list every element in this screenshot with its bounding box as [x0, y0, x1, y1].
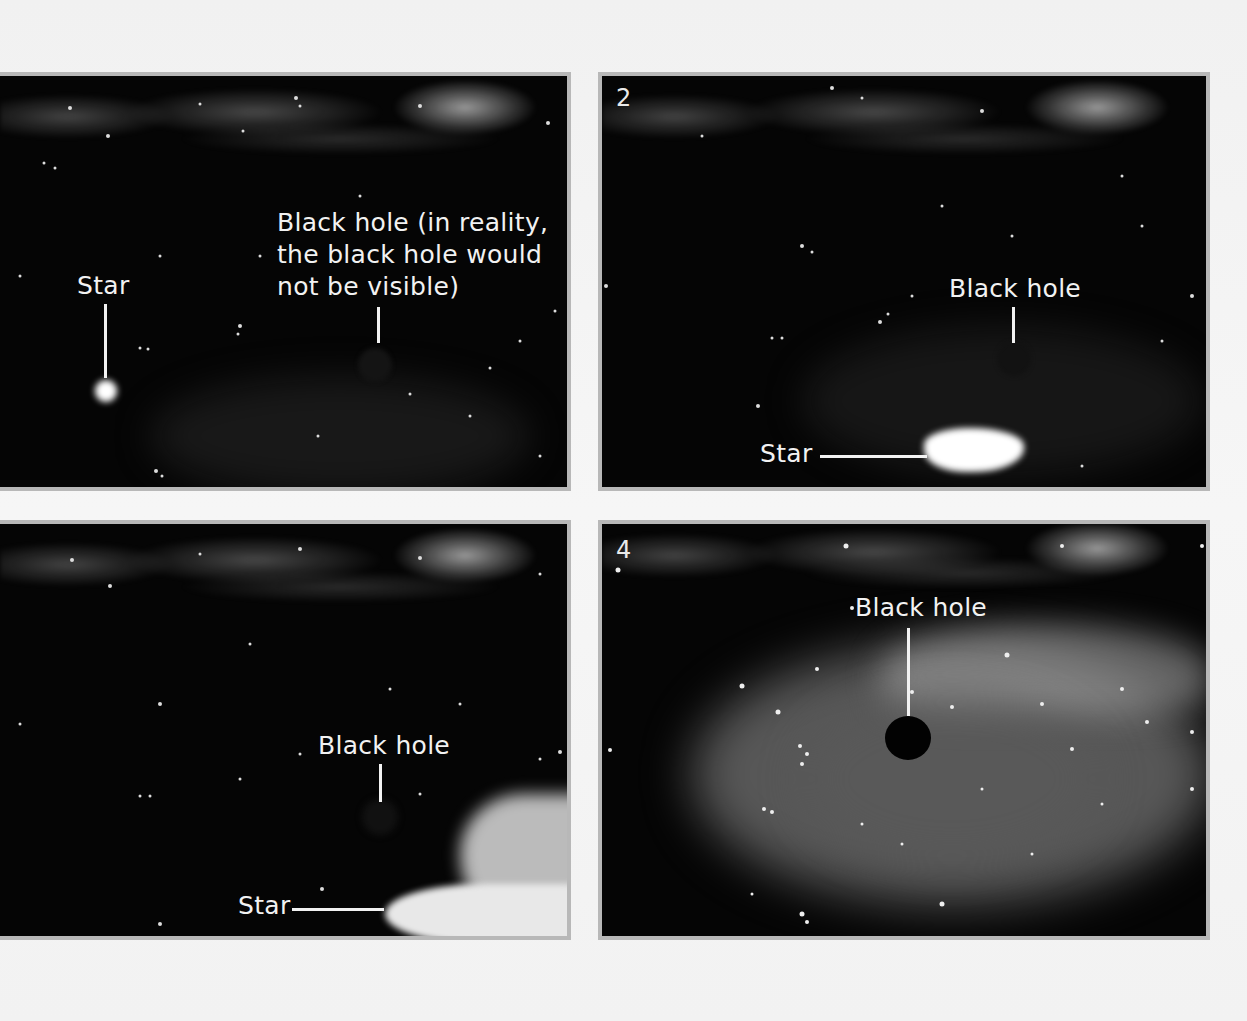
black-hole: [885, 716, 931, 760]
black-hole-leader-line: [907, 628, 910, 716]
panel-number: 2: [616, 84, 631, 112]
black-hole-label: Black hole: [855, 592, 987, 624]
star-object: [95, 380, 117, 402]
star-label: Star: [77, 270, 129, 302]
star-debris-stream: [385, 884, 571, 940]
star-label: Star: [760, 438, 812, 470]
black-hole-leader-line: [1012, 307, 1015, 343]
panel-2-star-stretched: 2 Black hole Star: [598, 72, 1210, 491]
panel-3-star-disrupted: Black hole Star: [0, 520, 571, 940]
black-hole-label-line1: Black hole (in reality,: [277, 207, 548, 239]
panel-number: 4: [616, 536, 631, 564]
black-hole-label: Black hole: [318, 730, 450, 762]
black-hole-leader-line: [379, 764, 382, 802]
black-hole-leader-line: [377, 307, 380, 343]
black-hole: [358, 348, 392, 382]
panel-4-accretion-disk: 4 Black hole: [598, 520, 1210, 940]
panel-1-star-approaching: Star Black hole (in reality, the black h…: [0, 72, 571, 491]
black-hole-label-line3: not be visible): [277, 271, 459, 303]
star-label: Star: [238, 890, 290, 922]
black-hole: [362, 799, 398, 835]
star-leader-line: [104, 304, 107, 378]
black-hole: [997, 342, 1031, 376]
black-hole-label-line2: the black hole would: [277, 239, 542, 271]
star-leader-line: [820, 455, 927, 458]
black-hole-label: Black hole: [949, 273, 1081, 305]
star-leader-line: [292, 908, 384, 911]
starfield: [602, 76, 1206, 487]
